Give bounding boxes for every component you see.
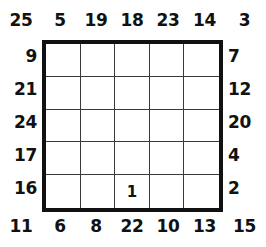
clue-corner-bottom-right: 15 xyxy=(223,205,266,247)
grid-cell[interactable] xyxy=(81,110,116,143)
clue-right-row-5: 2 xyxy=(223,172,266,205)
clue-right-row-4: 4 xyxy=(223,139,266,172)
puzzle-grid-cells: 1 xyxy=(46,44,219,208)
grid-cell[interactable] xyxy=(150,142,185,175)
clue-left-row-5: 16 xyxy=(0,172,42,205)
clue-top-col-2: 19 xyxy=(78,0,114,40)
clue-top-col-1: 5 xyxy=(42,0,78,40)
clue-top-col-4: 23 xyxy=(150,0,186,40)
grid-cell[interactable] xyxy=(115,110,150,143)
puzzle-grid: 1 xyxy=(42,40,223,212)
clue-right-row-3: 20 xyxy=(223,106,266,139)
clue-left-row-2: 21 xyxy=(0,73,42,106)
grid-cell[interactable] xyxy=(184,44,219,77)
clue-top-col-3: 18 xyxy=(114,0,150,40)
grid-cell[interactable] xyxy=(46,44,81,77)
clue-top-col-5: 14 xyxy=(186,0,223,40)
clue-left-row-4: 17 xyxy=(0,139,42,172)
clue-right-row-1: 7 xyxy=(223,40,266,73)
clue-corner-top-left: 25 xyxy=(0,0,42,40)
grid-cell[interactable] xyxy=(115,44,150,77)
grid-cell[interactable] xyxy=(46,142,81,175)
grid-cell[interactable] xyxy=(81,175,116,208)
grid-cell[interactable] xyxy=(81,142,116,175)
grid-cell[interactable] xyxy=(150,44,185,77)
grid-cell[interactable] xyxy=(184,110,219,143)
grid-cell[interactable]: 1 xyxy=(115,175,150,208)
grid-cell[interactable] xyxy=(150,175,185,208)
clue-corner-top-right: 3 xyxy=(223,0,266,40)
grid-cell[interactable] xyxy=(150,110,185,143)
grid-cell[interactable] xyxy=(184,175,219,208)
grid-cell[interactable] xyxy=(46,77,81,110)
grid-cell[interactable] xyxy=(115,142,150,175)
skyscrapers-puzzle: 25 5 19 18 23 14 3 9 7 21 12 24 20 17 xyxy=(0,0,266,247)
clue-left-row-1: 9 xyxy=(0,40,42,73)
grid-cell[interactable] xyxy=(81,44,116,77)
grid-cell[interactable] xyxy=(150,77,185,110)
grid-cell[interactable] xyxy=(184,77,219,110)
grid-cell[interactable] xyxy=(46,110,81,143)
grid-cell[interactable] xyxy=(184,142,219,175)
grid-cell[interactable] xyxy=(115,77,150,110)
clue-left-row-3: 24 xyxy=(0,106,42,139)
grid-cell[interactable] xyxy=(46,175,81,208)
grid-cell[interactable] xyxy=(81,77,116,110)
clue-right-row-2: 12 xyxy=(223,73,266,106)
clue-corner-bottom-left: 11 xyxy=(0,205,42,247)
